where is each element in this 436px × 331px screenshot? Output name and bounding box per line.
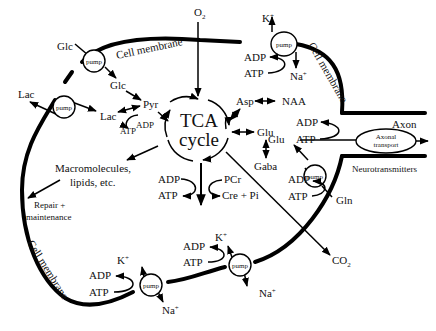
repair-label-line1: Repair + xyxy=(34,200,65,210)
membrane-label-bottom-left: Cell membrane xyxy=(25,238,71,302)
atp-bottom-left-label: ATP xyxy=(89,286,109,298)
neurotransmitters-label: Neurotransmitters xyxy=(352,164,417,174)
svg-text:pump: pump xyxy=(276,41,292,49)
membrane-label-top-right: Cell membrane xyxy=(306,40,350,105)
adp-center-label: ADP xyxy=(158,173,180,185)
adp-axon-label: ADP xyxy=(296,116,318,128)
na-top-label: Na+ xyxy=(290,70,307,82)
atp-glycolysis-label: ATP xyxy=(120,126,136,136)
axon-label: Axon xyxy=(392,118,417,130)
macromolecules-label-line2: lipids, etc. xyxy=(70,176,116,188)
gln-label: Gln xyxy=(336,194,353,206)
asp-label: Asp xyxy=(236,95,254,107)
svg-text:pump: pump xyxy=(232,262,248,270)
pump-bottom-mid: pump xyxy=(228,246,251,286)
atp-center-label: ATP xyxy=(158,189,178,201)
lac-inside-label: Lac xyxy=(100,110,117,122)
macromolecules-label-line1: Macromolecules, xyxy=(55,162,131,174)
co2-label: CO2 xyxy=(332,254,351,269)
svg-text:pump: pump xyxy=(56,104,72,112)
na-bottom-left-label: Na+ xyxy=(162,304,179,316)
adp-gln-label: ADP xyxy=(288,173,310,185)
pump-bottom-left: pump xyxy=(140,267,163,302)
glu-axon-label: Glu xyxy=(268,133,285,145)
axonal-transport: Axonal transport xyxy=(300,129,428,153)
svg-text:pump: pump xyxy=(86,58,102,66)
adp-bottom-left-label: ADP xyxy=(89,269,111,281)
pump-lactate: pump xyxy=(30,96,96,118)
pump-top-sodium-potassium: pump xyxy=(271,17,297,68)
glc-outside-label: Glc xyxy=(57,40,73,52)
o2-label: O2 xyxy=(194,6,206,21)
repair-label-line2: maintenance xyxy=(26,212,71,222)
glc-inside-label: Glc xyxy=(110,79,126,91)
k-bottom-mid-label: K+ xyxy=(215,231,227,243)
atp-gln-label: ATP xyxy=(288,190,308,202)
atp-axon-label: ATP xyxy=(296,133,316,145)
pyr-label: Pyr xyxy=(143,98,159,110)
metabolism-diagram: Cell membrane Cell membrane Cell membran… xyxy=(0,0,436,331)
k-bottom-left-label: K+ xyxy=(117,254,129,266)
atp-top-label: ATP xyxy=(244,67,264,79)
svg-text:transport: transport xyxy=(374,141,399,149)
pcr-label: PCr xyxy=(224,173,241,185)
tca-cycle: TCA cycle xyxy=(165,97,229,161)
gaba-label: Gaba xyxy=(254,160,277,172)
na-bottom-mid-label: Na+ xyxy=(259,287,276,299)
adp-glycolysis-label: ADP xyxy=(136,120,154,130)
atp-bottom-mid-label: ATP xyxy=(183,256,203,268)
lac-outside-label: Lac xyxy=(18,88,35,100)
adp-bottom-mid-label: ADP xyxy=(183,240,205,252)
cre-pi-label: Cre + Pi xyxy=(222,189,259,201)
adp-top-label: ADP xyxy=(244,51,266,63)
svg-text:Axonal: Axonal xyxy=(376,133,397,141)
tca-label-line2: cycle xyxy=(179,129,219,150)
naa-label: NAA xyxy=(282,95,306,107)
tca-label-line1: TCA xyxy=(180,110,218,131)
svg-text:pump: pump xyxy=(143,282,159,290)
